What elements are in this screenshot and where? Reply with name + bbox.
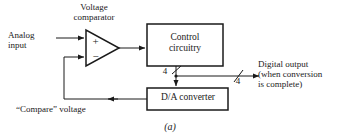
figure-caption: (a): [150, 121, 190, 132]
feedback-wire: [64, 57, 147, 99]
voltage-comparator-label: Voltage comparator: [56, 2, 132, 22]
bus-width-dac-label: 4: [159, 66, 171, 76]
comparator-minus-label: −: [90, 50, 101, 62]
digital-output-label: Digital output (when conversion is compl…: [258, 59, 340, 89]
figure-container: Voltage comparator Analog input Control …: [0, 0, 340, 140]
bus-width-output-label: 4: [232, 76, 244, 86]
da-converter-label: D/A converter: [149, 92, 227, 103]
compare-voltage-label: “Compare” voltage: [16, 104, 126, 114]
comparator-plus-label: +: [90, 35, 101, 47]
analog-input-label: Analog input: [8, 30, 60, 50]
control-circuitry-label: Control circuitry: [149, 32, 221, 53]
bus-junction-dot: [174, 74, 177, 77]
